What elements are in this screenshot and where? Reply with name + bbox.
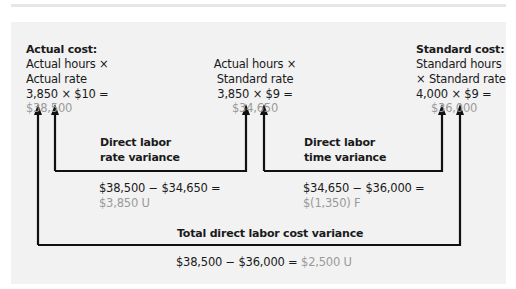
time-variance-calc: $34,650 − $36,000 = [303,181,425,197]
standard-cost-line1: Standard hours [416,57,502,73]
time-variance-result: $(1,350) F [303,196,360,212]
time-variance-title-2: time variance [304,150,386,166]
total-variance-calc: $38,500 − $36,000 = [176,255,298,269]
rate-variance-title-2: rate variance [100,150,180,166]
total-variance-title: Total direct labor cost variance [177,226,363,242]
standard-cost-title: Standard cost: [416,42,504,58]
actual-cost-line2: Actual rate [26,72,87,88]
actual-cost-title: Actual cost: [26,42,97,58]
rate-variance-calc: $38,500 − $34,650 = [99,181,221,197]
total-variance-result: $2,500 U [301,255,352,269]
standard-cost-result: $36,000 [431,101,477,117]
ahsr-result: $34,650 [200,101,310,117]
actual-cost-result: $38,500 [26,101,72,117]
ahsr-line1: Actual hours × [200,57,310,73]
total-variance-line: $38,500 − $36,000 = $2,500 U [176,255,352,271]
actual-cost-line1: Actual hours × [26,57,109,73]
time-variance-title-1: Direct labor [304,135,375,151]
rate-variance-result: $3,850 U [99,196,150,212]
ahsr-line2: Standard rate [200,72,310,88]
rate-variance-title-1: Direct labor [100,135,171,151]
standard-cost-line2: × Standard rate [416,72,506,88]
